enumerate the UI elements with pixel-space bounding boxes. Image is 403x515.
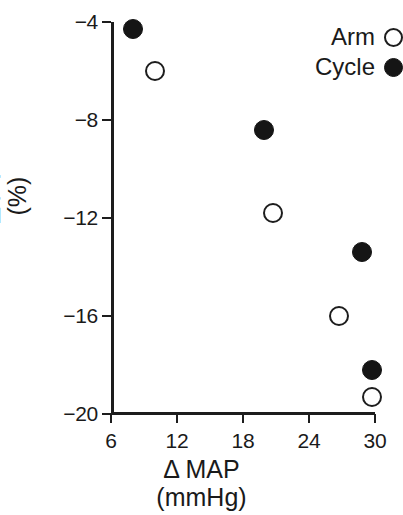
- scatter-plot-figure: Δ PV (%) Δ MAP (mmHg) −4−8−12−16−20 6121…: [0, 0, 403, 515]
- y-axis-tick-label: −20: [28, 403, 98, 424]
- filled-circle-icon: [384, 58, 403, 77]
- data-point-arm: [263, 203, 283, 223]
- x-axis-title: Δ MAP (mmHg): [0, 455, 403, 511]
- x-axis-tick-label: 12: [142, 430, 212, 451]
- open-circle-icon: [384, 28, 403, 47]
- x-axis-tick-label: 18: [208, 430, 278, 451]
- x-axis-tick-label: 30: [340, 430, 403, 451]
- x-axis-title-main: Δ MAP: [0, 455, 403, 483]
- y-axis-line: [111, 22, 114, 414]
- x-axis-tick: [110, 414, 112, 423]
- y-axis-tick: [102, 315, 111, 317]
- data-point-cycle: [352, 242, 372, 262]
- x-axis-title-units: (mmHg): [0, 483, 403, 511]
- x-axis-tick-label: 24: [274, 430, 344, 451]
- y-axis-tick: [102, 217, 111, 219]
- y-axis-tick-label: −8: [28, 109, 98, 130]
- x-axis-tick: [374, 414, 376, 423]
- legend-entry-arm: Arm: [293, 22, 403, 52]
- y-axis-tick: [102, 21, 111, 23]
- x-axis-tick-label: 6: [76, 430, 146, 451]
- data-point-arm: [362, 387, 382, 407]
- x-axis-tick: [242, 414, 244, 423]
- legend-label-cycle: Cycle: [315, 55, 375, 79]
- data-point-arm: [145, 61, 165, 81]
- x-axis-tick: [176, 414, 178, 423]
- y-axis-title-units: (%): [4, 96, 30, 296]
- data-point-arm: [329, 306, 349, 326]
- legend-label-arm: Arm: [331, 25, 375, 49]
- y-axis-tick-label: −12: [28, 207, 98, 228]
- data-point-cycle: [123, 19, 143, 39]
- data-point-cycle: [254, 120, 274, 140]
- legend-entry-cycle: Cycle: [293, 52, 403, 82]
- y-axis-title: Δ PV (%): [0, 96, 31, 296]
- y-axis-tick: [102, 119, 111, 121]
- legend: Arm Cycle: [293, 22, 403, 82]
- y-axis-tick-label: −16: [28, 305, 98, 326]
- x-axis-tick: [308, 414, 310, 423]
- data-point-cycle: [362, 360, 382, 380]
- y-axis-tick-label: −4: [28, 11, 98, 32]
